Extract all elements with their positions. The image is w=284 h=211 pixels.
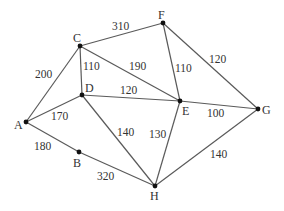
edge-b-h — [79, 152, 155, 186]
edge-weight-c-f: 310 — [112, 20, 130, 32]
edge-weight-a-c: 200 — [35, 68, 53, 80]
edge-weight-c-d: 110 — [83, 60, 100, 72]
edge-weight-e-g: 100 — [207, 107, 225, 119]
node-g — [256, 107, 261, 112]
node-a — [24, 120, 29, 125]
node-b — [77, 150, 82, 155]
edge-e-h — [155, 101, 180, 186]
edge-weight-f-e: 110 — [175, 62, 192, 74]
weighted-graph-diagram: 2003101101901101201201701401301001803201… — [0, 0, 284, 211]
edges-layer — [26, 23, 258, 186]
node-e — [178, 99, 183, 104]
node-label-f: F — [158, 8, 165, 22]
node-label-a: A — [14, 118, 23, 132]
edge-weight-b-h: 320 — [97, 170, 115, 182]
edge-c-d — [80, 46, 82, 95]
edge-d-h — [82, 95, 155, 186]
node-d — [80, 93, 85, 98]
nodes-layer: ABCDEFGH — [14, 8, 271, 203]
edge-weight-f-g: 120 — [209, 53, 227, 65]
edge-weight-c-e: 190 — [129, 60, 147, 72]
node-label-b: B — [73, 156, 81, 170]
edge-weight-d-h: 140 — [117, 126, 135, 138]
edge-weight-a-d: 170 — [51, 110, 69, 122]
edge-g-h — [155, 109, 258, 186]
edge-weight-d-e: 120 — [120, 84, 138, 96]
node-h — [153, 184, 158, 189]
node-label-h: H — [150, 189, 159, 203]
edge-weight-e-h: 130 — [149, 128, 167, 140]
node-label-g: G — [262, 103, 271, 117]
node-label-d: D — [85, 81, 94, 95]
node-label-e: E — [182, 104, 189, 118]
node-label-c: C — [73, 31, 81, 45]
edge-weights-layer: 2003101101901101201201701401301001803201… — [34, 20, 228, 182]
edge-weight-g-h: 140 — [210, 148, 228, 160]
edge-weight-a-b: 180 — [34, 140, 52, 152]
